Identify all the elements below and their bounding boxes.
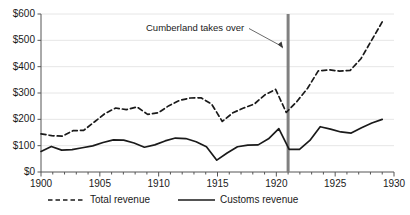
x-tick-label: 1900 xyxy=(21,179,61,189)
x-tick-label: 1930 xyxy=(374,179,410,189)
annotation-arrow xyxy=(249,29,283,49)
y-tick-label: $0 xyxy=(24,167,35,177)
y-tick-label: $300 xyxy=(13,88,35,98)
x-tick-label: 1905 xyxy=(80,179,120,189)
y-tick-label: $100 xyxy=(13,141,35,151)
annotation-label: Cumberland takes over xyxy=(146,22,244,33)
y-tick-label: $500 xyxy=(13,35,35,45)
x-axis-ticks xyxy=(41,172,394,177)
gridlines xyxy=(41,14,394,146)
y-tick-label: $200 xyxy=(13,114,35,124)
series-line-customs-revenue xyxy=(41,119,382,160)
data-series xyxy=(41,22,382,160)
y-tick-label: $400 xyxy=(13,62,35,72)
x-tick-label: 1910 xyxy=(139,179,179,189)
x-tick-label: 1920 xyxy=(256,179,296,189)
x-tick-label: 1915 xyxy=(198,179,238,189)
y-tick-label: $600 xyxy=(13,9,35,19)
legend-label-total-revenue: Total revenue xyxy=(90,195,150,205)
y-axis-ticks xyxy=(38,14,42,172)
legend-label-customs-revenue: Customs revenue xyxy=(220,195,298,205)
x-tick-label: 1925 xyxy=(315,179,355,189)
